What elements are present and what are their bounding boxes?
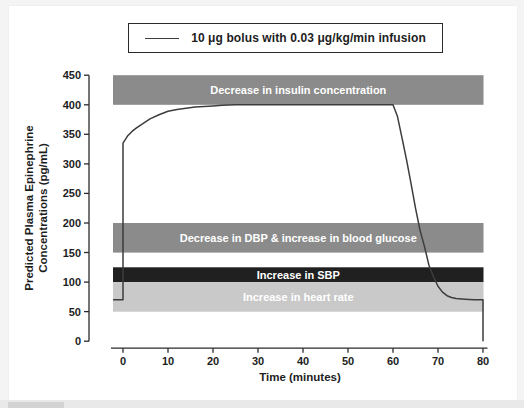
x-tick-label: 30	[252, 355, 264, 367]
y-tick-label: 400	[63, 99, 81, 111]
y-tick-label: 0	[75, 335, 81, 347]
y-tick-label: 300	[63, 158, 81, 170]
band-4-label: Increase in heart rate	[243, 291, 354, 303]
y-tick-label: 200	[63, 217, 81, 229]
y-tick-label: 50	[69, 306, 81, 318]
y-tick-label: 250	[63, 187, 81, 199]
x-tick-label: 70	[432, 355, 444, 367]
x-tick-label: 20	[207, 355, 219, 367]
y-tick-label: 100	[63, 276, 81, 288]
y-tick-label: 150	[63, 247, 81, 259]
x-tick-label: 40	[297, 355, 309, 367]
x-tick-label: 60	[387, 355, 399, 367]
y-tick-label: 450	[63, 69, 81, 81]
epinephrine-chart: Decrease in insulin concentrationDecreas…	[0, 0, 524, 408]
x-axis-title: Time (minutes)	[150, 371, 450, 383]
x-tick-label: 0	[120, 355, 126, 367]
x-tick-label: 80	[477, 355, 489, 367]
band-3-label: Increase in SBP	[257, 269, 340, 281]
y-tick-label: 350	[63, 128, 81, 140]
x-tick-label: 50	[342, 355, 354, 367]
band-2-label: Decrease in DBP & increase in blood gluc…	[180, 232, 417, 244]
x-tick-label: 10	[162, 355, 174, 367]
band-1-label: Decrease in insulin concentration	[210, 84, 386, 96]
